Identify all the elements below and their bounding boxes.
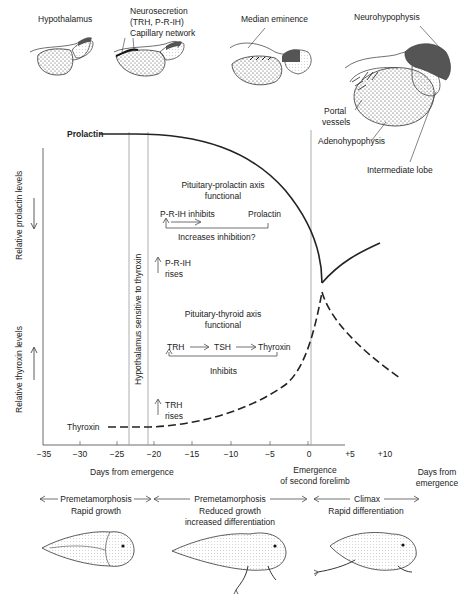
stage-2-subtitle-2: increased differentiation — [170, 517, 290, 527]
x-tick: −30 — [69, 449, 91, 459]
portal-label: Portal — [324, 106, 346, 116]
pituitary-panel-2 — [114, 38, 184, 76]
increases-inhibition-label: Increases inhibition? — [178, 232, 256, 242]
prolactin-axis-title-1: Pituitary-prolactin axis — [168, 180, 278, 190]
y-label-prolactin: Relative prolactin levels — [14, 171, 24, 260]
intermediate-lobe-label: Intermediate lobe — [367, 165, 433, 175]
stage-3-title: Climax — [350, 494, 384, 504]
tsh-node-label: TSH — [214, 342, 231, 352]
capillary-network-label: Capillary network — [130, 28, 195, 38]
prih-inhibits-label: P-R-IH inhibits — [160, 209, 215, 219]
thyroxin-node-label: Thyroxin — [258, 342, 291, 352]
stage-1-subtitle: Rapid growth — [46, 506, 146, 516]
thyroxin-series-label: Thyroxin — [67, 422, 100, 432]
x-tick: −5 — [259, 449, 281, 459]
adenohypophysis-label: Adenohypophysis — [318, 136, 385, 146]
stage-2-title: Premetamorphosis — [180, 494, 280, 504]
thyroid-axis-title-1: Pituitary-thyroid axis — [168, 309, 278, 319]
emergence-label-2: of second forelimb — [270, 476, 360, 486]
tadpole-stage-2 — [172, 533, 286, 594]
vessels-label: vessels — [322, 117, 350, 127]
thyroid-axis-title-2: functional — [168, 320, 278, 330]
pituitary-panel-3 — [230, 28, 311, 85]
hypothalamus-sensitive-label: Hypothalamus sensitive to thyroxin — [133, 254, 143, 385]
x-tick: +10 — [374, 449, 396, 459]
emergence-label-1: Emergence — [270, 465, 360, 475]
stage-2-subtitle: Reduced growth — [170, 506, 290, 516]
x-tick: −20 — [143, 449, 165, 459]
hypothalamus-label: Hypothalamus — [38, 14, 92, 24]
stage-3-subtitle: Rapid differentiation — [316, 506, 416, 516]
x-axis-label: Days from emergence — [90, 467, 174, 477]
inhibits-label: Inhibits — [210, 366, 237, 376]
neurohypophysis-label: Neurohypophysis — [354, 12, 420, 22]
prolactin-series-label: Prolactin — [67, 129, 103, 139]
days-right-label-1: Days from — [410, 467, 464, 477]
prih-rises-label-2: rises — [165, 269, 183, 279]
median-eminence-label: Median eminence — [241, 14, 308, 24]
days-right-label-2: emergence — [410, 478, 464, 488]
x-tick: +5 — [339, 449, 361, 459]
y-axis-arrows — [31, 198, 37, 380]
chart-axes — [43, 130, 345, 445]
trh-node-label: TRH — [167, 342, 184, 352]
trh-rises-label-2: rises — [165, 411, 183, 421]
x-tick: −15 — [181, 449, 203, 459]
x-tick: −25 — [106, 449, 128, 459]
x-tick: 0 — [298, 449, 320, 459]
stage-1-title: Premetamorphosis — [46, 494, 146, 504]
trh-rises-label-1: TRH — [165, 400, 182, 410]
pituitary-panel-1 — [30, 37, 93, 75]
x-tick: −10 — [220, 449, 242, 459]
prih-rises-label-1: P-R-IH — [165, 258, 191, 268]
neurosecretion-label: Neurosecretion — [130, 6, 188, 16]
prolactin-node-label: Prolactin — [248, 209, 281, 219]
trh-prih-label: (TRH, P-R-IH) — [130, 17, 184, 27]
prolactin-axis-title-2: functional — [168, 191, 278, 201]
x-tick: −35 — [33, 449, 55, 459]
y-label-thyroxin: Relative thyroxin levels — [14, 326, 24, 413]
froglet-stage-3 — [314, 533, 416, 577]
tadpole-stage-1 — [42, 532, 134, 567]
